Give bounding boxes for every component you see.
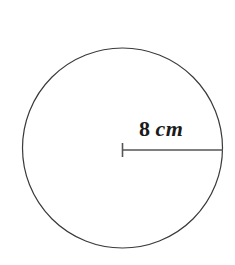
geometry-canvas	[0, 0, 235, 265]
radius-unit-text: cm	[156, 116, 184, 141]
radius-dimension-label: 8cm	[139, 118, 183, 140]
circle-radius-figure: 8cm	[0, 0, 235, 265]
radius-value-text: 8	[139, 116, 151, 141]
